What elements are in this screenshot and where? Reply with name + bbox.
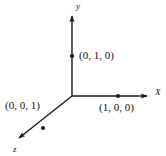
unit-z-point-label: (0, 0, 1) [5,100,40,111]
coordinate-axes-figure: y X z (0, 1, 0) (1, 0, 0) (0, 0, 1) [0,0,166,156]
unit-x-point-marker [116,94,120,98]
unit-z-point-marker [41,126,45,130]
z-axis-label: z [13,145,17,154]
unit-x-point-label: (1, 0, 0) [99,102,134,113]
unit-y-point-marker [70,54,74,58]
unit-y-point-label: (0, 1, 0) [79,50,114,61]
y-axis-label: y [76,2,80,11]
axes-drawing [0,0,166,156]
x-axis-label: X [155,88,161,97]
